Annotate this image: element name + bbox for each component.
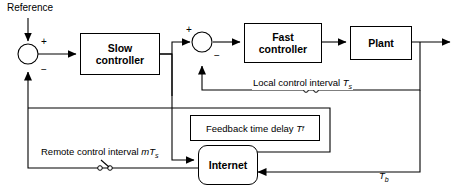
block-internet[interactable]: Internet xyxy=(198,145,258,185)
internet-label: Internet xyxy=(209,159,248,171)
wire-slow-out-stub xyxy=(160,54,172,96)
local-control-interval-annotation: Local control interval Ts xyxy=(252,77,353,90)
junction-1-minus-sign: − xyxy=(41,66,47,74)
reference-label: Reference xyxy=(6,2,54,13)
slow-controller-label-line2: controller xyxy=(96,54,144,66)
switch-remote-feedback[interactable] xyxy=(98,160,113,170)
summing-junction-1 xyxy=(18,44,38,64)
local-control-interval-subscript: s xyxy=(349,83,353,90)
block-plant[interactable]: Plant xyxy=(350,26,412,60)
junction-2-plus-sign: + xyxy=(186,26,192,34)
block-slow-controller[interactable]: Slow controller xyxy=(80,33,160,75)
fast-controller-label-line2: controller xyxy=(259,43,307,55)
remote-control-interval-text: Remote control interval xyxy=(41,146,139,157)
summing-junction-2 xyxy=(192,32,212,52)
slow-controller-label-line1: Slow xyxy=(96,42,144,54)
remote-control-interval-subscript: s xyxy=(155,152,159,159)
junction-2-minus-sign: − xyxy=(214,52,220,60)
block-fast-controller[interactable]: Fast controller xyxy=(244,23,322,63)
control-system-diagram: Reference + − + − Slow controller Fast c… xyxy=(0,0,457,192)
feedback-time-delay-subscript: f xyxy=(302,125,304,132)
feedback-time-delay-text: Feedback time delay xyxy=(206,123,294,134)
fast-controller-label-line1: Fast xyxy=(259,31,307,43)
plant-label: Plant xyxy=(368,37,394,49)
wire-to-internet-input xyxy=(172,54,194,160)
backward-delay-annotation: Tb xyxy=(378,170,390,183)
remote-control-interval-annotation: Remote control interval mTs xyxy=(40,146,160,159)
local-control-interval-text: Local control interval xyxy=(253,77,340,88)
wire-slow-to-j2 xyxy=(172,42,190,54)
junction-1-plus-sign: + xyxy=(41,38,47,46)
remote-control-interval-symbol: mT xyxy=(141,146,155,157)
feedback-time-delay-annotation: Feedback time delay Tf xyxy=(190,115,320,141)
backward-delay-subscript: b xyxy=(385,176,389,183)
